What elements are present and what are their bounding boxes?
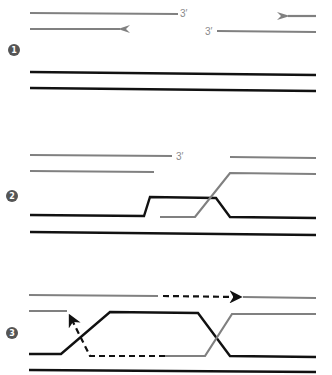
recombination-diagram: 1 3′ 3′ 2 3′ 3 xyxy=(0,0,332,375)
step2-gray-second-left xyxy=(30,171,154,172)
step2-black-bottom xyxy=(30,232,316,235)
three-prime-label: 3′ xyxy=(205,26,213,37)
step3-dashed-synthesis-bottom xyxy=(70,316,165,356)
three-prime-label: 3′ xyxy=(180,8,188,19)
step-2: 2 3′ xyxy=(6,151,316,235)
step2-black-strand xyxy=(30,197,316,218)
step3-black-bottom xyxy=(29,370,316,372)
arrowhead-icon xyxy=(118,25,130,33)
svg-text:3: 3 xyxy=(9,329,15,338)
step3-dashed-synthesis-top xyxy=(163,296,240,297)
step-2-marker: 2 xyxy=(6,190,18,202)
step2-invading-strand xyxy=(160,173,316,217)
step-1-marker: 1 xyxy=(8,44,20,56)
step1-black-top xyxy=(30,72,316,75)
svg-text:2: 2 xyxy=(9,192,15,201)
three-prime-label: 3′ xyxy=(176,151,184,162)
step3-gray-top-left xyxy=(29,295,158,296)
step1-black-bottom xyxy=(30,88,316,91)
step1-gray-bottom-right xyxy=(217,31,316,32)
step2-gray-top-left xyxy=(30,155,172,156)
step-1: 1 3′ 3′ xyxy=(8,8,316,91)
step-3: 3 xyxy=(6,295,316,372)
step2-gray-top-right xyxy=(230,157,316,158)
svg-text:1: 1 xyxy=(11,46,17,55)
step3-gray-strand xyxy=(165,314,316,356)
step3-black-strand xyxy=(29,312,316,357)
step-3-marker: 3 xyxy=(6,327,18,339)
step1-gray-top-left xyxy=(30,13,178,14)
step3-gray-top-right xyxy=(243,297,316,298)
